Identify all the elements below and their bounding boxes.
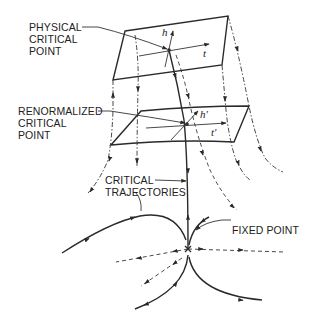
axis-t-prime-label: t' (211, 126, 217, 138)
svg-text:TRAJECTORIES: TRAJECTORIES (105, 186, 186, 198)
svg-text:CRITICAL: CRITICAL (105, 174, 154, 186)
svg-text:POINT: POINT (18, 129, 51, 141)
renormalized-axes: h' t' (146, 108, 226, 140)
svg-text:CRITICAL: CRITICAL (29, 33, 78, 45)
svg-text:PHYSICAL: PHYSICAL (29, 21, 82, 33)
fixed-point-label: FIXED POINT (232, 224, 300, 236)
rg-flow-diagram: h t h' t' PHYSICAL CRITICAL POINT RENORM… (0, 0, 311, 327)
renormalized-critical-point-label: RENORMALIZED CRITICAL POINT (18, 105, 103, 141)
svg-text:POINT: POINT (29, 45, 62, 57)
svg-text:CRITICAL: CRITICAL (18, 117, 67, 129)
axis-h-prime-label: h' (200, 108, 209, 120)
svg-text:FIXED POINT: FIXED POINT (232, 224, 300, 236)
svg-text:RENORMALIZED: RENORMALIZED (18, 105, 103, 117)
leader-lines (82, 27, 231, 230)
physical-plane (113, 16, 228, 80)
physical-axes: h t (139, 26, 209, 67)
axis-t-label: t (203, 47, 207, 59)
critical-trajectories-label: CRITICAL TRAJECTORIES (105, 174, 186, 198)
critical-trajectory (62, 50, 262, 309)
physical-critical-point-label: PHYSICAL CRITICAL POINT (29, 21, 82, 57)
axis-h-label: h (162, 26, 168, 38)
